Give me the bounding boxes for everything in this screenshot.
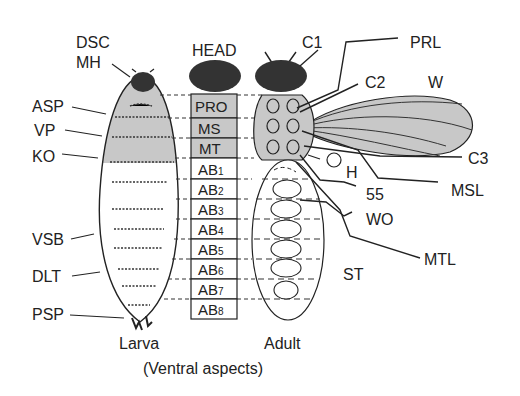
label-dsc: DSC [76, 34, 110, 51]
larva-figure: DSC MH ASP VP KO VSB DLT PSP Larva [32, 34, 190, 352]
haltere [327, 153, 341, 167]
label-st: ST [343, 266, 364, 283]
figure-caption: (Ventral aspects) [143, 360, 263, 377]
label-wo: WO [366, 211, 394, 228]
label-msl: MSL [451, 182, 484, 199]
label-asp: ASP [32, 98, 64, 115]
label-mh: MH [76, 54, 101, 71]
label-head: HEAD [192, 42, 236, 59]
label-w: W [428, 74, 444, 91]
larva-caption: Larva [119, 335, 159, 352]
segment-column: HEAD PRO MS MT AB1 AB2 AB3 AB4 AB5 AB6 [160, 42, 262, 319]
segment-pro: PRO [195, 98, 228, 115]
label-c3: C3 [468, 150, 489, 167]
segment-head-shape [189, 60, 241, 92]
label-dlt: DLT [32, 268, 61, 285]
label-c2: C2 [365, 74, 386, 91]
ventral-aspects-diagram: DSC MH ASP VP KO VSB DLT PSP Larva HEAD … [0, 0, 520, 396]
label-vp: VP [34, 122, 55, 139]
label-psp: PSP [32, 306, 64, 323]
label-c1: C1 [302, 34, 323, 51]
segment-ms: MS [198, 120, 221, 137]
label-prl: PRL [410, 34, 441, 51]
segment-mt: MT [199, 140, 221, 157]
adult-head [255, 60, 307, 92]
label-vsb: VSB [32, 231, 64, 248]
adult-caption: Adult [264, 335, 301, 352]
adult-wing [304, 96, 473, 155]
label-h: H [346, 164, 358, 181]
label-ko: KO [32, 148, 55, 165]
label-55: 55 [366, 186, 384, 203]
label-mtl: MTL [424, 251, 456, 268]
larva-mouth-hook [131, 72, 155, 92]
adult-figure: C1 PRL C2 W C3 H MSL 55 WO MTL ST Adult [252, 34, 489, 352]
